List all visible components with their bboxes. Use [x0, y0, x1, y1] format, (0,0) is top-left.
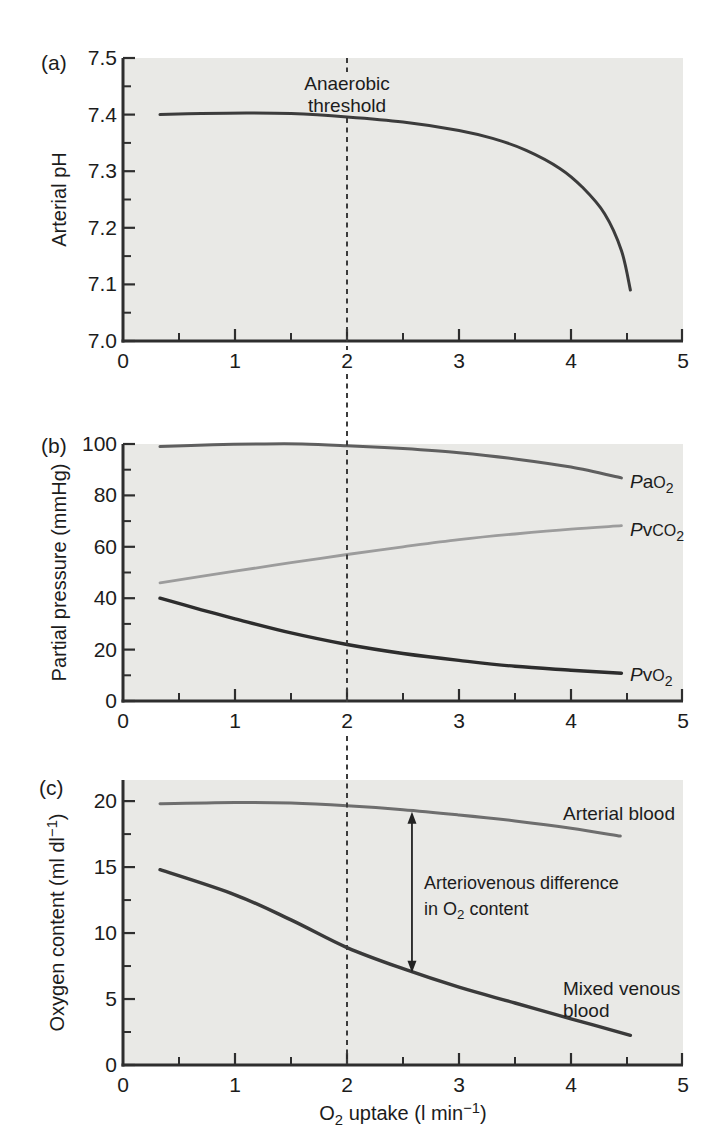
x-tick-label: 3	[453, 709, 465, 732]
anaerobic-threshold-label-line2: threshold	[308, 95, 386, 116]
x-tick-label: 2	[341, 1073, 353, 1096]
exercise-physiology-figure: 7.07.17.27.37.47.5012345 (a) Arterial pH…	[0, 0, 716, 1146]
panel-c-tag: (c)	[39, 776, 64, 799]
panel-b-tag: (b)	[41, 434, 67, 457]
y-tick-label: 0	[105, 689, 117, 712]
y-tick-label: 0	[105, 1053, 117, 1076]
y-tick-label: 80	[94, 483, 117, 506]
x-tick-label: 1	[229, 1073, 241, 1096]
y-tick-label: 100	[82, 432, 117, 455]
x-tick-label: 4	[565, 709, 577, 732]
x-tick-label: 5	[677, 709, 689, 732]
y-tick-label: 60	[94, 535, 117, 558]
x-axis-label: O2 uptake (l min−1)	[319, 1100, 486, 1128]
panel-b-plot-area	[123, 444, 683, 701]
y-tick-label: 7.5	[88, 46, 117, 69]
y-tick-label: 5	[105, 987, 117, 1010]
y-tick-label: 40	[94, 586, 117, 609]
panel-b: 020406080100012345 (b) Partial pressure …	[41, 432, 689, 732]
av-difference-label-line1: Arteriovenous difference	[424, 873, 619, 893]
y-tick-label: 7.3	[88, 159, 117, 182]
x-tick-label: 0	[117, 1073, 129, 1096]
y-tick-label: 20	[94, 789, 117, 812]
av-difference-label-line2: in O2 content	[424, 899, 528, 922]
x-tick-label: 2	[341, 349, 353, 372]
x-tick-label: 2	[341, 709, 353, 732]
y-tick-label: 20	[94, 638, 117, 661]
anaerobic-threshold-label-line1: Anaerobic	[304, 73, 390, 94]
x-tick-label: 3	[453, 1073, 465, 1096]
panel-c-ylabel: Oxygen content (ml dl−1)	[44, 813, 68, 1031]
x-tick-label: 0	[117, 349, 129, 372]
y-tick-label: 15	[94, 855, 117, 878]
panel-a-ylabel: Arterial pH	[48, 152, 70, 246]
mixed-venous-blood-label-line1: Mixed venous	[563, 978, 680, 999]
x-tick-label: 5	[677, 1073, 689, 1096]
x-tick-label: 1	[229, 349, 241, 372]
arterial-blood-label: Arterial blood	[563, 803, 675, 824]
y-tick-label: 7.2	[88, 216, 117, 239]
x-tick-label: 5	[677, 349, 689, 372]
y-tick-label: 7.0	[88, 329, 117, 352]
panel-a-tag: (a)	[41, 51, 67, 74]
figure-canvas: 7.07.17.27.37.47.5012345 (a) Arterial pH…	[0, 0, 716, 1146]
y-tick-label: 7.4	[88, 103, 118, 126]
mixed-venous-blood-label-line2: blood	[563, 1000, 610, 1021]
x-tick-label: 4	[565, 1073, 577, 1096]
panel-a-plot-area	[123, 58, 683, 341]
panel-c: 05101520012345 (c) Oxygen content (ml dl…	[39, 776, 689, 1096]
x-tick-label: 3	[453, 349, 465, 372]
x-tick-label: 0	[117, 709, 129, 732]
x-tick-label: 1	[229, 709, 241, 732]
y-tick-label: 7.1	[88, 272, 117, 295]
y-tick-label: 10	[94, 921, 117, 944]
x-tick-label: 4	[565, 349, 577, 372]
panel-b-ylabel: Partial pressure (mmHg)	[48, 464, 70, 682]
